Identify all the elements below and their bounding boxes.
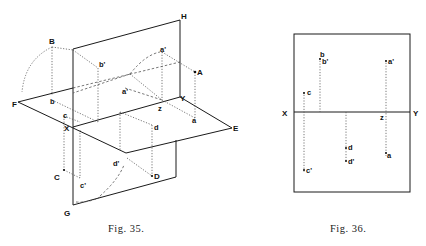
arc-g-d	[76, 196, 102, 202]
label-z: z	[380, 113, 384, 122]
point-d	[345, 147, 347, 149]
point-c-prime	[303, 169, 305, 171]
label-b: b	[50, 97, 55, 106]
label-C: C	[54, 173, 60, 182]
ground-line-xy	[73, 97, 180, 127]
point-a-prime	[385, 60, 387, 62]
label-c: c	[63, 111, 67, 120]
b-to-ground	[52, 100, 98, 122]
label-c-prime: c'	[306, 166, 312, 175]
label-X: X	[64, 124, 70, 133]
figure-36: X Y z b b' a' c a d d' c' Fig. 36.	[282, 34, 419, 234]
figure-35: H B A F E X Y G C D b b' a a' a' c c' d …	[12, 12, 239, 234]
label-Y: Y	[180, 94, 186, 103]
label-a-prime-top: a'	[160, 45, 166, 54]
arc-d-rotation	[100, 165, 124, 196]
label-b-prime: b'	[99, 60, 106, 69]
horizontal-plane-back-edge-left	[18, 88, 73, 102]
label-c: c	[307, 88, 311, 97]
c-to-c-prime	[64, 170, 80, 178]
point-A	[194, 71, 197, 74]
label-a: a	[192, 116, 197, 125]
horizontal-plane-right-edge	[180, 97, 232, 128]
label-E: E	[233, 124, 239, 133]
label-D: D	[154, 172, 160, 181]
label-H: H	[181, 12, 187, 21]
label-a-prime-rotated: a'	[122, 87, 128, 96]
label-b-prime: b'	[322, 57, 329, 66]
caption-fig-36: Fig. 36.	[330, 223, 366, 234]
a-prime-inner	[130, 74, 162, 100]
label-B: B	[49, 37, 55, 46]
label-F: F	[12, 100, 17, 109]
a-prime-rotated	[125, 88, 162, 100]
label-d: d	[348, 143, 353, 152]
point-d-prime	[345, 160, 347, 162]
label-z: z	[158, 104, 162, 113]
point-c	[303, 92, 305, 94]
d-prime-to-d	[127, 158, 152, 176]
label-Y: Y	[413, 109, 419, 118]
label-a-prime: a'	[388, 57, 394, 66]
horizontal-plane-front-left-edge	[18, 102, 126, 153]
label-A: A	[197, 68, 203, 77]
label-a: a	[387, 151, 392, 160]
vertical-plane-bottom-edge	[73, 177, 176, 205]
label-X: X	[282, 109, 288, 118]
point-D	[151, 175, 153, 177]
label-G: G	[64, 209, 70, 218]
horizontal-plane-back-edge-hidden	[73, 62, 180, 88]
arc-b-to-f	[22, 47, 52, 92]
caption-fig-35: Fig. 35.	[108, 223, 144, 234]
label-d: d	[154, 123, 159, 132]
b-prime-projector	[73, 50, 98, 68]
horizontal-plane-front-right-edge	[126, 128, 232, 153]
b-projector-top	[52, 47, 73, 50]
diagram-canvas: H B A F E X Y G C D b b' a a' a' c c' d …	[0, 0, 426, 246]
point-C	[63, 169, 65, 171]
d-horizontal	[120, 112, 152, 125]
label-d-prime: d'	[113, 159, 120, 168]
label-c-prime: c'	[80, 181, 86, 190]
label-d-prime: d'	[348, 157, 355, 166]
